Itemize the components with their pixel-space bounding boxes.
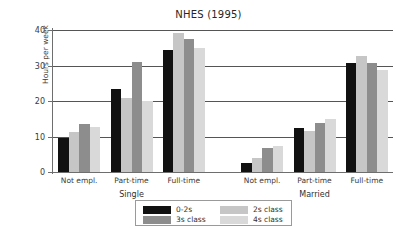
bar	[173, 33, 184, 172]
y-tick-mark	[48, 172, 52, 173]
gridline	[53, 137, 393, 138]
bar	[184, 39, 195, 172]
bar	[194, 48, 205, 172]
legend-label: 4s class	[253, 215, 283, 224]
bar	[273, 146, 284, 172]
gridline	[53, 101, 393, 102]
chart-figure: NHES (1995) Hours per week 010203040 Not…	[0, 0, 417, 233]
bar	[79, 124, 90, 172]
bar	[262, 148, 273, 172]
bar	[121, 98, 132, 172]
y-tick-mark	[48, 101, 52, 102]
bar	[325, 119, 336, 172]
legend-label: 0-2s	[176, 205, 192, 214]
legend-swatch	[220, 216, 248, 224]
x-group-label: Single	[119, 190, 144, 199]
gridline	[53, 66, 393, 67]
bar	[241, 163, 252, 172]
bar	[90, 127, 101, 172]
gridline	[53, 172, 393, 173]
legend-swatch	[143, 216, 171, 224]
chart-legend: 0-2s3s class2s class4s class	[135, 200, 292, 226]
bar	[294, 128, 305, 172]
plot-area: Hours per week 010203040 Not empl.Part-t…	[53, 30, 393, 172]
bar	[252, 158, 263, 172]
bar	[367, 63, 378, 172]
chart-title: NHES (1995)	[0, 9, 417, 20]
y-tick-label: 10	[35, 132, 45, 141]
y-tick-label: 0	[40, 168, 45, 177]
bar	[58, 138, 69, 172]
y-tick-label: 20	[35, 97, 45, 106]
bar	[377, 70, 388, 172]
bar	[346, 63, 357, 172]
y-tick-mark	[48, 66, 52, 67]
x-tick-label: Not empl.	[61, 176, 98, 185]
legend-label: 3s class	[176, 215, 206, 224]
y-tick-mark	[48, 30, 52, 31]
bar	[111, 89, 122, 172]
bar	[315, 123, 326, 172]
x-tick-label: Full-time	[168, 176, 200, 185]
y-tick-mark	[48, 137, 52, 138]
x-group-label: Married	[299, 190, 329, 199]
x-tick-label: Not empl.	[244, 176, 281, 185]
y-tick-label: 30	[35, 61, 45, 70]
x-tick-label: Part-time	[114, 176, 148, 185]
legend-label: 2s class	[253, 205, 283, 214]
bar	[142, 101, 153, 172]
bar	[356, 56, 367, 172]
bar	[304, 131, 315, 172]
y-tick-label: 40	[35, 26, 45, 35]
gridline	[53, 30, 393, 31]
bar	[132, 62, 143, 172]
x-tick-label: Part-time	[297, 176, 331, 185]
x-tick-label: Full-time	[351, 176, 383, 185]
bar	[163, 50, 174, 172]
legend-swatch	[220, 206, 248, 214]
bar	[69, 132, 80, 172]
legend-swatch	[143, 206, 171, 214]
